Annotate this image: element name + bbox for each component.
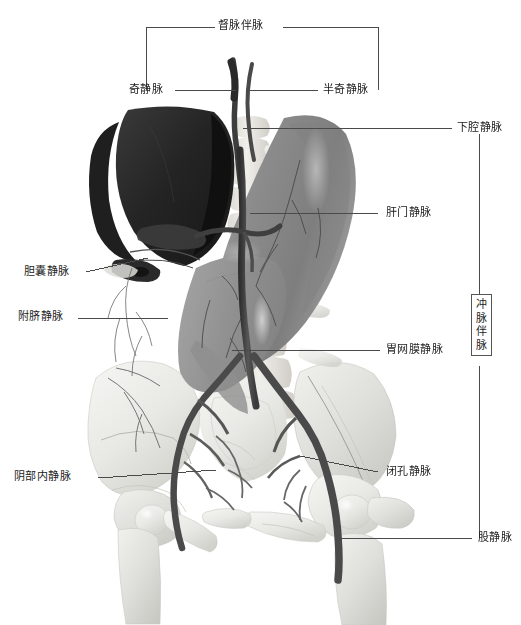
label-hemiazygos: 半奇静脉 [323, 84, 369, 96]
label-inferior-vena-cava: 下腔静脉 [457, 122, 503, 134]
label-azygos: 奇静脉 [129, 84, 163, 96]
label-paraumbilical: 附脐静脉 [18, 311, 64, 323]
liver [89, 106, 234, 282]
label-femoral: 股静脉 [478, 532, 512, 544]
label-internal-pudendal: 阴部内静脉 [14, 471, 71, 483]
vein-network-liver [108, 268, 152, 376]
label-cystic: 胆囊静脉 [24, 266, 70, 278]
anatomy-illustration [0, 0, 521, 625]
label-obturator: 闭孔静脉 [386, 466, 432, 478]
label-chong-bracket: 冲脉伴脉 [471, 294, 492, 356]
label-gastroomental: 胃网膜静脉 [386, 344, 443, 356]
label-hepatic-portal: 肝门静脉 [386, 207, 432, 219]
label-top-bracket: 督脉伴脉 [218, 20, 264, 32]
figure-canvas: 督脉伴脉 奇静脉 半奇静脉 下腔静脉 肝门静脉 胆囊静脉 附脐静脉 胃网膜静脉 … [0, 0, 521, 625]
